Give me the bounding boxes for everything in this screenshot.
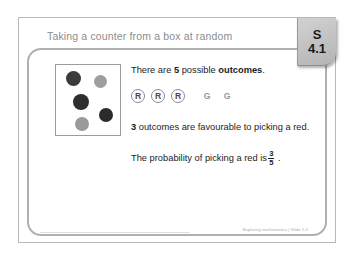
symbol-g-1: G <box>200 89 214 103</box>
line-probability: The probability of picking a red is 3 5 … <box>131 150 281 167</box>
probability-fraction: 3 5 <box>268 150 274 167</box>
probability-period: . <box>278 153 281 165</box>
counter-green-1 <box>94 75 107 88</box>
outcomes-pre-text: There are <box>131 65 174 75</box>
page-title: Taking a counter from a box at random <box>47 30 297 42</box>
slide-root: Taking a counter from a box at random S … <box>0 0 355 259</box>
fraction-numerator: 3 <box>269 150 273 158</box>
footer-credit: Exploring mathematics | Slide 1.4 <box>196 227 308 232</box>
symbol-r-1: R <box>131 89 145 103</box>
line-total-outcomes: There are 5 possible outcomes. <box>131 65 265 77</box>
probability-sentence: The probability of picking a red is <box>131 153 267 165</box>
outcome-symbol-row: RRRGG <box>131 89 234 103</box>
counter-red-2 <box>73 94 89 110</box>
counter-box <box>55 64 121 136</box>
counter-green-2 <box>75 117 89 131</box>
counter-red-1 <box>66 71 81 86</box>
symbol-g-2: G <box>220 89 234 103</box>
line-favourable-outcomes: 3 outcomes are favourable to picking a r… <box>131 122 309 134</box>
counter-red-3 <box>99 108 113 122</box>
outcomes-keyword: outcomes <box>218 65 262 75</box>
outcomes-post-text: . <box>262 65 265 75</box>
section-tab-badge[interactable]: S 4.1 <box>297 18 336 66</box>
footer-divider <box>40 232 190 233</box>
section-tab-number: 4.1 <box>308 42 326 56</box>
outcomes-mid-text: possible <box>179 65 218 75</box>
section-tab-letter: S <box>313 28 322 42</box>
fraction-denominator: 5 <box>269 159 273 167</box>
favourable-rest-text: outcomes are favourable to picking a red… <box>136 122 309 132</box>
symbol-r-2: R <box>151 89 165 103</box>
symbol-r-3: R <box>171 89 185 103</box>
